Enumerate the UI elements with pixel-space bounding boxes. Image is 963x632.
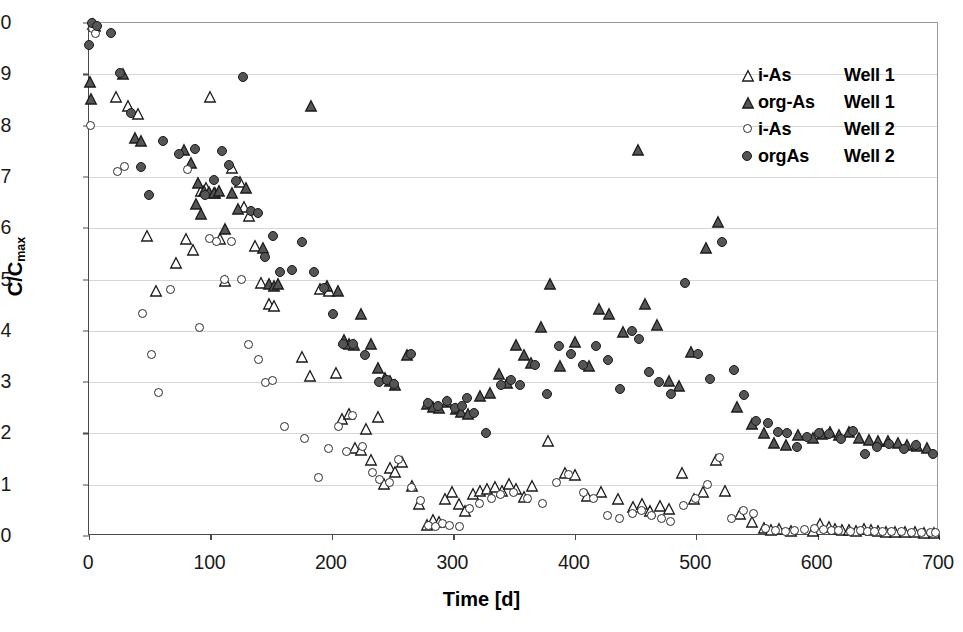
- marker-circle-open: [743, 124, 752, 133]
- x-axis-tick: [696, 534, 697, 540]
- marker-triangle-filled: [219, 223, 231, 235]
- marker-circle-filled: [319, 283, 329, 293]
- marker-circle-open: [227, 237, 236, 246]
- marker-triangle-open: [268, 300, 280, 312]
- marker-circle-filled: [200, 190, 210, 200]
- legend-well-label: Well 2: [844, 146, 895, 167]
- marker-circle-open: [810, 524, 819, 533]
- marker-triangle-filled: [639, 298, 651, 310]
- marker-circle-open: [475, 499, 484, 508]
- marker-triangle-open: [446, 486, 458, 498]
- marker-triangle-open: [204, 91, 216, 103]
- marker-circle-filled: [506, 375, 516, 385]
- x-axis-tick: [453, 534, 454, 540]
- marker-triangle-open: [663, 503, 675, 515]
- marker-circle-filled: [782, 428, 792, 438]
- marker-triangle-open: [150, 285, 162, 297]
- marker-circle-filled: [209, 175, 219, 185]
- marker-circle-filled: [836, 434, 846, 444]
- x-axis-title: Time [d]: [0, 588, 963, 611]
- marker-circle-filled: [530, 360, 540, 370]
- marker-triangle-filled: [240, 182, 252, 194]
- marker-triangle-open: [612, 493, 624, 505]
- legend-item[interactable]: i-AsWell 2: [738, 116, 895, 143]
- marker-circle-open: [166, 285, 175, 294]
- gridline: [89, 280, 937, 281]
- marker-circle-filled: [591, 341, 601, 351]
- marker-circle-filled: [136, 162, 146, 172]
- marker-triangle-filled: [135, 135, 147, 147]
- marker-triangle-filled: [780, 439, 792, 451]
- marker-circle-open: [647, 511, 656, 520]
- marker-circle-open: [615, 514, 624, 523]
- marker-triangle-open: [187, 244, 199, 256]
- marker-circle-filled: [717, 237, 727, 247]
- marker-circle-filled: [603, 355, 613, 365]
- legend-marker: [738, 66, 758, 86]
- marker-circle-open: [375, 475, 384, 484]
- marker-circle-filled: [644, 367, 654, 377]
- marker-triangle-filled: [569, 336, 581, 348]
- marker-triangle-open: [141, 230, 153, 242]
- y-axis-tick: [83, 228, 89, 229]
- y-axis-tick-label: 1.0: [0, 11, 11, 34]
- marker-triangle-filled: [85, 93, 97, 105]
- legend-well-label: Well 2: [844, 119, 895, 140]
- marker-triangle-open: [526, 480, 538, 492]
- x-axis-tick-label: 400: [558, 551, 590, 574]
- marker-circle-open: [603, 511, 612, 520]
- marker-triangle-filled: [731, 401, 743, 413]
- marker-circle-filled: [680, 278, 690, 288]
- marker-triangle-open: [676, 467, 688, 479]
- marker-triangle-open: [304, 370, 316, 382]
- marker-circle-filled: [224, 160, 234, 170]
- marker-triangle-filled: [355, 308, 367, 320]
- marker-circle-filled: [751, 416, 761, 426]
- marker-circle-filled: [92, 21, 102, 31]
- marker-triangle-filled: [603, 308, 615, 320]
- scatter-chart-figure: 0.00.10.20.30.40.50.60.70.80.91.0 010020…: [0, 0, 963, 632]
- marker-triangle-filled: [365, 338, 377, 350]
- marker-circle-open: [790, 526, 799, 535]
- x-axis-tick: [575, 534, 576, 540]
- marker-circle-filled: [268, 231, 278, 241]
- marker-circle-open: [314, 473, 323, 482]
- marker-circle-filled: [360, 350, 370, 360]
- marker-circle-filled: [554, 341, 564, 351]
- marker-circle-filled: [763, 418, 773, 428]
- gridline: [89, 331, 937, 332]
- legend-item[interactable]: org-AsWell 1: [738, 89, 895, 116]
- legend-well-label: Well 1: [844, 65, 895, 86]
- marker-circle-filled: [469, 408, 479, 418]
- marker-circle-open: [907, 528, 916, 537]
- x-axis-tick: [89, 534, 90, 540]
- marker-circle-open: [385, 478, 394, 487]
- marker-triangle-filled: [232, 203, 244, 215]
- legend-series-label: orgAs: [758, 146, 844, 167]
- marker-circle-filled: [406, 349, 416, 359]
- marker-circle-open: [138, 309, 147, 318]
- marker-circle-open: [846, 527, 855, 536]
- marker-circle-filled: [433, 401, 443, 411]
- x-axis-tick-label: 0: [83, 551, 94, 574]
- marker-triangle-filled: [554, 360, 566, 372]
- x-axis-tick-label: 200: [315, 551, 347, 574]
- marker-circle-filled: [693, 349, 703, 359]
- marker-circle-filled: [860, 449, 870, 459]
- legend-marker: [738, 93, 758, 113]
- marker-circle-filled: [666, 389, 676, 399]
- legend-item[interactable]: orgAsWell 2: [738, 143, 895, 170]
- marker-circle-open: [280, 422, 289, 431]
- legend-well-label: Well 1: [844, 92, 895, 113]
- x-axis-tick: [332, 534, 333, 540]
- x-axis-tick-label: 700: [922, 551, 954, 574]
- marker-circle-filled: [729, 365, 739, 375]
- marker-circle-filled: [275, 267, 285, 277]
- marker-circle-open: [254, 355, 263, 364]
- marker-triangle-open: [372, 411, 384, 423]
- marker-circle-filled: [739, 390, 749, 400]
- marker-circle-open: [445, 521, 454, 530]
- legend-item[interactable]: i-AsWell 1: [738, 62, 895, 89]
- y-axis-tick-label: 0.0: [0, 524, 11, 547]
- marker-circle-open: [703, 480, 712, 489]
